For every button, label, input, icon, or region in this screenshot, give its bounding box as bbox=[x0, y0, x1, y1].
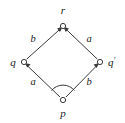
edge-p-to-qprime bbox=[66, 66, 97, 97]
node-r bbox=[60, 23, 65, 28]
commute-arc-marker bbox=[52, 85, 75, 90]
edge-label-p-to-q: a bbox=[30, 76, 35, 87]
node-p bbox=[60, 97, 65, 102]
diagram-canvas: r q q′ p b a a b bbox=[0, 0, 125, 123]
node-qprime bbox=[97, 59, 102, 64]
commutative-diagram: r q q′ p b a a b bbox=[0, 0, 125, 123]
node-label-q: q bbox=[10, 56, 16, 68]
node-q bbox=[21, 59, 26, 64]
edge-label-q-to-r: b bbox=[30, 33, 35, 44]
node-label-p: p bbox=[59, 107, 66, 119]
edge-label-qprime-to-r: a bbox=[86, 33, 91, 44]
edge-qprime-to-r bbox=[66, 29, 98, 59]
node-label-qprime-mark: ′ bbox=[114, 56, 116, 65]
node-label-r: r bbox=[61, 4, 66, 16]
edge-label-p-to-qprime: b bbox=[86, 76, 91, 87]
node-label-qprime: q′ bbox=[108, 56, 116, 68]
